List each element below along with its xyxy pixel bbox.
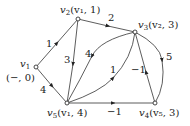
weight-v1-v2: 1	[46, 38, 52, 49]
label-v3: v3(v₂, 3)	[138, 19, 178, 32]
label-v1: v1	[20, 58, 30, 71]
weight-v2-v3: 2	[108, 12, 114, 23]
node-v3	[133, 30, 137, 34]
label-v4: v4(v₅, 3)	[139, 107, 179, 120]
weight-v3-v4: 5	[166, 51, 172, 62]
label-v5: v5(v₁, 4)	[47, 107, 87, 120]
weight-v5-v3: 1	[110, 64, 116, 75]
weight-v2-v5: 3	[64, 54, 70, 65]
edge-v2-v3	[78, 19, 135, 32]
label-v2: v2(v₁, 1)	[60, 4, 100, 17]
node-v4	[153, 101, 157, 105]
weight-v4-v3: −1	[131, 64, 146, 75]
graph-diagram: 1 4 2 3 4 1 5 −1 −1 v1 (−, 0) v2(v₁, 1) …	[0, 0, 190, 126]
node-v1	[34, 65, 38, 69]
edge-v1-v2	[36, 19, 78, 67]
weight-v1-v5: 4	[40, 84, 46, 95]
weight-v3-v5: 4	[85, 48, 91, 59]
edge-v3-v5	[67, 32, 135, 103]
edge-v5-v3	[67, 32, 135, 103]
weight-v5-v4: −1	[107, 106, 122, 117]
node-v2	[76, 17, 80, 21]
annotation-v1: (−, 0)	[6, 72, 35, 83]
node-v5	[65, 101, 69, 105]
